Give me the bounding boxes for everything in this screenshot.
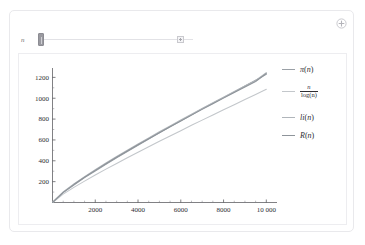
legend-label-pi: π(n) [300,65,313,74]
x-tick-label: 10 000 [257,206,277,214]
curve-n/log(n) [53,89,267,202]
circle-plus-icon[interactable] [336,15,347,26]
y-tick-label: 200 [39,178,50,186]
legend-item-pi: π(n) [282,59,338,79]
controls-row: n [10,32,355,50]
legend-swatch-li [282,117,295,118]
slider-track[interactable] [38,39,193,40]
curve-π(n) [53,74,267,202]
plot-legend: π(n)nlog(n)li(n)R(n) [282,59,338,144]
legend-label-n-over-log-n: nlog(n) [300,84,318,99]
n-slider[interactable] [30,32,193,48]
x-tick-label: 4000 [131,206,146,214]
legend-swatch-pi [282,69,295,70]
x-tick-label: 8000 [217,206,232,214]
legend-swatch-R [282,135,295,136]
slider-handle[interactable] [38,33,44,46]
y-tick-label: 800 [39,115,50,123]
plot-curves [53,73,267,203]
x-axis-ticks: 200040006000800010 000 [63,200,276,214]
slider-expand-button[interactable] [177,36,184,43]
y-tick-label: 600 [39,136,50,144]
legend-swatch-n-over-log-n [282,91,295,92]
x-tick-label: 6000 [174,206,189,214]
legend-label-R: R(n) [300,131,314,140]
curve-R(n) [53,74,267,203]
legend-fraction-denominator: log(n) [300,92,318,99]
y-tick-label: 1200 [35,74,50,82]
demonstration-panel: n 20040060080010001200 20004000600080001… [9,10,354,232]
legend-item-R: R(n) [282,125,338,145]
x-tick-label: 2000 [88,206,103,214]
legend-fraction-numerator: n [300,84,318,91]
y-tick-label: 400 [39,157,50,165]
legend-item-n-over-log-n: nlog(n) [282,81,338,101]
legend-label-li: li(n) [300,113,314,122]
y-tick-label: 1000 [35,95,50,103]
slider-label: n [21,35,25,45]
legend-item-li: li(n) [282,107,338,127]
